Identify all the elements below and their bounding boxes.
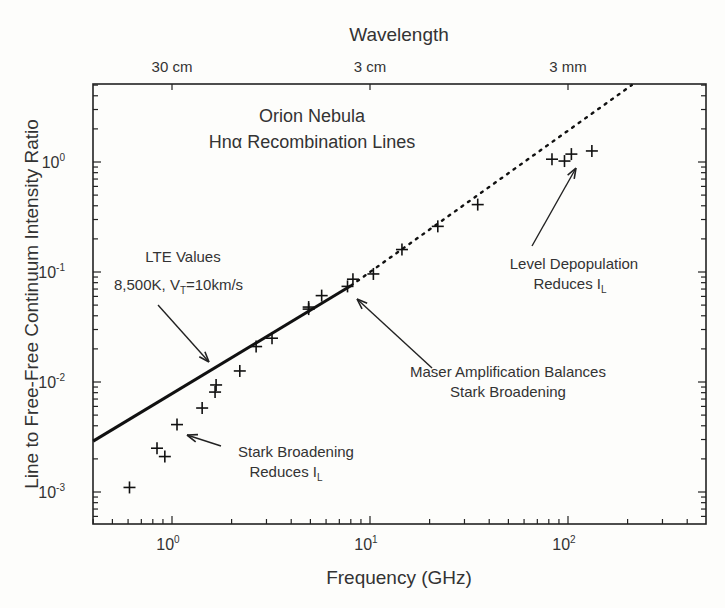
arrow-stark	[187, 435, 221, 446]
annotation-depop-line2: Reduces IL	[533, 275, 607, 295]
y-tick-label: 100	[42, 152, 66, 171]
y-tick-label: 10-3	[38, 482, 65, 501]
annotation-lte-line2: 8,500K, VT=10km/s	[114, 276, 243, 296]
data-point	[250, 341, 262, 353]
data-point	[396, 244, 408, 256]
top-tick-label: 3 cm	[354, 58, 387, 75]
data-point	[266, 332, 278, 344]
annotation-stark-line1: Stark Broadening	[238, 443, 354, 460]
top-tick-label: 30 cm	[152, 58, 193, 75]
annotation-depop-line1: Level Depopulation	[510, 255, 638, 272]
arrow-depop-head	[568, 168, 576, 179]
x-tick-label: 100	[156, 534, 180, 553]
chart: 30 cm3 cm3 mm10010110210010-110-210-3 Wa…	[0, 0, 725, 608]
y-axis-label: Line to Free-Free Continuum Intensity Ra…	[21, 119, 42, 489]
data-point	[210, 379, 222, 391]
data-point	[123, 481, 135, 493]
data-point	[472, 199, 484, 211]
annotation-title-line2: Hnα Recombination Lines	[209, 132, 416, 152]
annotation-stark-line2: Reduces IL	[249, 463, 323, 483]
data-point	[586, 145, 598, 157]
annotation-maser-line1: Maser Amplification Balances	[410, 363, 606, 380]
annotation-maser-line2: Stark Broadening	[450, 383, 566, 400]
y-tick-label: 10-1	[38, 262, 65, 281]
data-point	[196, 402, 208, 414]
data-point	[367, 268, 379, 280]
x-tick-label: 101	[354, 534, 378, 553]
arrow-maser	[357, 299, 432, 368]
data-point	[159, 451, 171, 463]
data-point	[151, 442, 163, 454]
data-point	[209, 386, 221, 398]
arrow-depop	[532, 168, 576, 246]
arrow-lte	[158, 305, 209, 362]
x-axis-label: Frequency (GHz)	[326, 567, 472, 588]
data-point	[558, 155, 570, 167]
annotation-lte-line1: LTE Values	[145, 248, 220, 265]
data-point	[432, 220, 444, 232]
data-point	[171, 419, 183, 431]
annotation-title-line1: Orion Nebula	[259, 106, 366, 126]
data-point	[565, 148, 577, 160]
annotation-arrows	[158, 168, 576, 446]
data-point	[234, 365, 246, 377]
x-tick-label: 102	[552, 534, 576, 553]
data-point	[546, 153, 558, 165]
top-tick-label: 3 mm	[549, 58, 587, 75]
data-point	[347, 273, 359, 285]
top-axis-label: Wavelength	[349, 24, 449, 45]
data-point	[303, 301, 315, 313]
y-tick-label: 10-2	[38, 372, 65, 391]
